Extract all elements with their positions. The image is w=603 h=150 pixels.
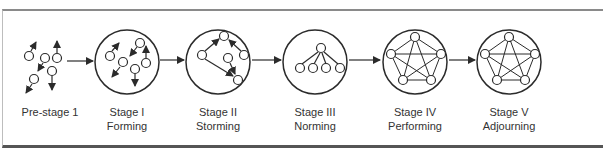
stage-description: Adjourning — [459, 119, 559, 133]
pre-stage-individuals-icon — [25, 41, 62, 93]
norming-circle-icon — [283, 30, 347, 94]
adjourning-circle-icon — [477, 30, 541, 94]
stage-name: Stage II — [168, 105, 268, 119]
stage-description: Storming — [168, 119, 268, 133]
stage-description: Norming — [265, 119, 365, 133]
stage-description: Performing — [365, 119, 465, 133]
label-stage-1: Stage I Forming — [77, 105, 177, 133]
label-stage-5: Stage V Adjourning — [459, 105, 559, 133]
stage-name: Stage V — [459, 105, 559, 119]
label-stage-2: Stage II Storming — [168, 105, 268, 133]
stage-description: Forming — [77, 119, 177, 133]
forming-circle-icon — [95, 30, 159, 94]
storming-circle-icon — [186, 30, 250, 94]
label-stage-4: Stage IV Performing — [365, 105, 465, 133]
stage-name: Stage I — [77, 105, 177, 119]
performing-circle-icon — [383, 30, 447, 94]
label-stage-3: Stage III Norming — [265, 105, 365, 133]
stage-name: Stage IV — [365, 105, 465, 119]
stage-name: Stage III — [265, 105, 365, 119]
